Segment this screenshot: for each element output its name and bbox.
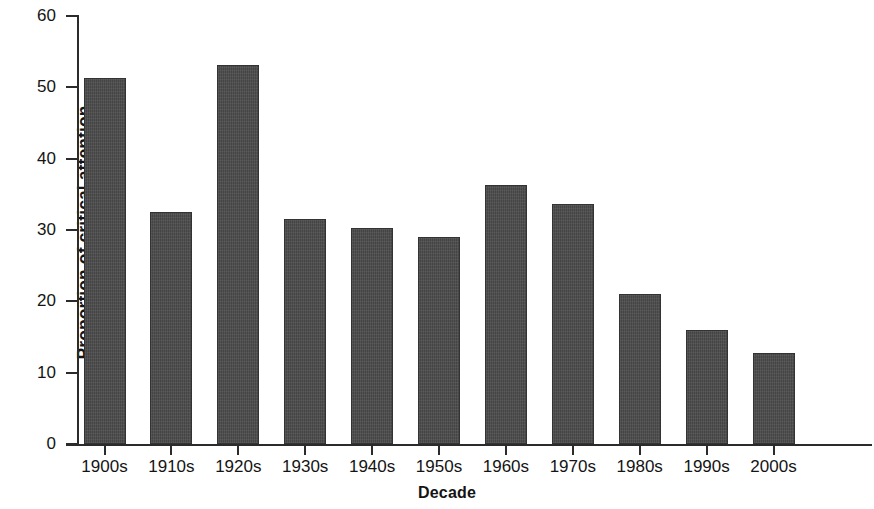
x-axis-line	[66, 444, 872, 446]
x-axis-title: Decade	[0, 484, 874, 502]
y-axis-tick-label: 10	[0, 364, 56, 381]
bar-1920s	[217, 65, 259, 444]
y-axis-tick	[66, 86, 77, 88]
y-axis-tick	[66, 229, 77, 231]
y-axis-tick-label: 30	[0, 221, 56, 238]
x-axis-tick	[706, 446, 708, 455]
bar-1990s	[686, 330, 728, 444]
x-axis-tick-label: 2000s	[729, 458, 819, 475]
y-axis-tick-label: 60	[0, 7, 56, 24]
x-axis-title-text: Decade	[418, 484, 476, 501]
y-axis-tick	[66, 372, 77, 374]
x-axis-tick	[773, 446, 775, 455]
x-axis-tick	[639, 446, 641, 455]
x-axis-tick	[104, 446, 106, 455]
bar-1900s	[84, 78, 126, 444]
bar-2000s	[753, 353, 795, 444]
x-axis-tick	[304, 446, 306, 455]
y-axis-line	[77, 15, 79, 445]
y-axis-tick-label: 50	[0, 78, 56, 95]
x-axis-tick	[237, 446, 239, 455]
bar-1910s	[150, 212, 192, 444]
bar-chart-figure: Proportion of critical attention 0102030…	[0, 0, 874, 509]
y-axis-tick	[66, 300, 77, 302]
x-axis-tick	[170, 446, 172, 455]
bar-1940s	[351, 228, 393, 444]
y-axis-tick	[66, 158, 77, 160]
bar-1960s	[485, 185, 527, 444]
x-axis-tick	[438, 446, 440, 455]
bar-1930s	[284, 219, 326, 444]
y-axis-tick-label: 40	[0, 150, 56, 167]
x-axis-tick	[572, 446, 574, 455]
bar-1950s	[418, 237, 460, 444]
plot-area: 01020304050601900s1910s1920s1930s1940s19…	[0, 0, 874, 509]
x-axis-tick	[505, 446, 507, 455]
bar-1970s	[552, 204, 594, 444]
y-axis-tick-label: 0	[0, 435, 56, 452]
bar-1980s	[619, 294, 661, 444]
y-axis-tick	[66, 15, 77, 17]
y-axis-tick	[66, 443, 77, 445]
y-axis-tick-label: 20	[0, 292, 56, 309]
x-axis-tick	[371, 446, 373, 455]
